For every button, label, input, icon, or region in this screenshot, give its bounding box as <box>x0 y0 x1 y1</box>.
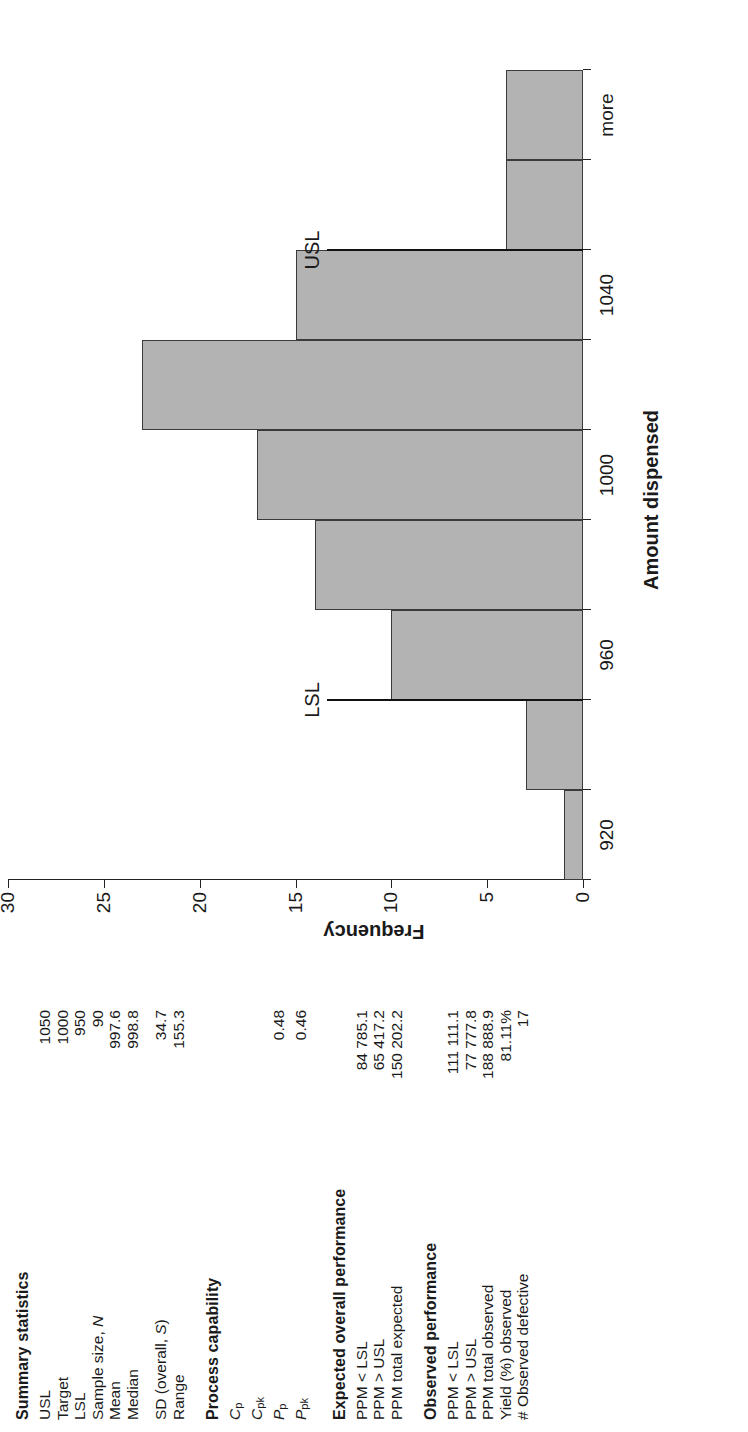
stat-value: 997.6 <box>106 1010 124 1049</box>
stat-row: Mean997.6 <box>106 1010 124 1420</box>
stat-label: PPM total expected <box>388 1286 406 1420</box>
spec-limit-line-usl <box>327 249 583 251</box>
stat-value: 1050 <box>36 1010 54 1044</box>
spec-limit-label-usl: USL <box>301 231 324 270</box>
stat-value: 84 785.1 <box>353 1010 371 1070</box>
bar <box>257 430 583 520</box>
stat-row: SD (overall, S)34.7 <box>152 1010 170 1420</box>
summary-statistics-block: Summary statistics USL1050Target1000LSL9… <box>14 1010 187 1420</box>
y-tick <box>487 880 488 888</box>
chart-canvas: Frequency Amount dispensed 051015202530 … <box>0 0 748 1000</box>
x-tick <box>583 159 591 160</box>
stat-label: Yield (%) observed <box>497 1290 515 1420</box>
bar <box>391 610 583 700</box>
stat-row: Sample size, N90 <box>89 1010 107 1420</box>
summary-heading: Summary statistics <box>14 1010 32 1420</box>
stat-row: Ppk0.46 <box>292 1010 314 1420</box>
summary-rows: USL1050Target1000LSL950Sample size, N90M… <box>36 1010 141 1420</box>
stat-value: 77 777.8 <box>462 1010 480 1070</box>
stat-value: 90 <box>89 1010 107 1027</box>
stat-label: # Observed defective <box>514 1274 532 1420</box>
stat-label: Range <box>170 1374 188 1420</box>
y-tick <box>8 880 9 888</box>
observed-rows: PPM < LSL111 111.1PPM > USL77 777.8PPM t… <box>444 1010 532 1420</box>
x-tick <box>583 429 591 430</box>
stat-value: 81.11% <box>497 1010 515 1061</box>
y-tick-label: 10 <box>380 892 402 913</box>
stat-value: 34.7 <box>152 1010 170 1040</box>
stat-label: Sample size, N <box>89 1316 107 1420</box>
stat-label: PPM < LSL <box>444 1341 462 1420</box>
stat-row: LSL950 <box>71 1010 89 1420</box>
stat-value: 1000 <box>54 1010 72 1044</box>
x-axis-title: Amount dispensed <box>640 410 663 590</box>
bar <box>315 520 583 610</box>
x-tick <box>583 879 591 880</box>
x-tick-label: 1000 <box>596 454 618 496</box>
stat-row: PPM < LSL111 111.1 <box>444 1010 462 1420</box>
stat-label: Mean <box>106 1381 124 1420</box>
x-tick-label: 960 <box>596 639 618 671</box>
stat-value: 0.46 <box>292 1010 314 1040</box>
y-axis-title: Frequency <box>323 920 424 943</box>
observed-heading: Observed performance <box>422 1010 440 1420</box>
stat-row: Target1000 <box>54 1010 72 1420</box>
stat-label: PPM < LSL <box>353 1341 371 1420</box>
x-tick <box>583 69 591 70</box>
x-tick <box>583 339 591 340</box>
y-tick-label: 20 <box>189 892 211 913</box>
expected-performance-block: Expected overall performance PPM < LSL84… <box>331 1010 406 1420</box>
stat-label: PPM > USL <box>370 1339 388 1420</box>
stat-label: Cp <box>226 1403 248 1420</box>
stat-label: Ppk <box>292 1398 314 1420</box>
stat-label: SD (overall, S) <box>152 1319 170 1420</box>
stat-row: PPM total observed188 888.9 <box>479 1010 497 1420</box>
stat-row: PPM total expected150 202.2 <box>388 1010 406 1420</box>
y-tick-label: 25 <box>93 892 115 913</box>
y-tick-label: 0 <box>572 892 594 903</box>
stat-row: Cp <box>226 1010 248 1420</box>
capability-heading: Process capability <box>204 1010 222 1420</box>
stat-row: Range155.3 <box>170 1010 188 1420</box>
stat-value: 950 <box>71 1010 89 1036</box>
x-tick <box>583 789 591 790</box>
stat-value: 0.48 <box>270 1010 292 1040</box>
bar <box>296 250 584 340</box>
y-tick <box>391 880 392 888</box>
stat-value: 17 <box>514 1010 532 1027</box>
stat-label: Target <box>54 1377 72 1420</box>
y-tick-label: 15 <box>285 892 307 913</box>
stat-row: PPM < LSL84 785.1 <box>353 1010 371 1420</box>
observed-performance-block: Observed performance PPM < LSL111 111.1P… <box>422 1010 532 1420</box>
expected-heading: Expected overall performance <box>331 1010 349 1420</box>
page-root: Frequency Amount dispensed 051015202530 … <box>0 0 748 1432</box>
bar <box>564 790 583 880</box>
stat-row: Median998.8 <box>124 1010 142 1420</box>
statistics-canvas: Summary statistics USL1050Target1000LSL9… <box>0 1000 748 1432</box>
x-tick-label: 920 <box>596 819 618 851</box>
spec-limit-label-lsl: LSL <box>301 682 324 718</box>
bar <box>506 160 583 250</box>
spec-limit-line-lsl <box>327 699 583 701</box>
plot-area: 051015202530 92096010001040more LSLUSL <box>8 70 583 880</box>
stat-label: Pp <box>270 1403 292 1420</box>
stat-label: Median <box>124 1369 142 1420</box>
x-tick-label: 1040 <box>596 274 618 316</box>
stat-row: PPM > USL65 417.2 <box>370 1010 388 1420</box>
x-tick <box>583 699 591 700</box>
stat-value: 65 417.2 <box>370 1010 388 1070</box>
y-tick-label: 5 <box>476 892 498 903</box>
y-tick <box>583 880 584 888</box>
x-tick <box>583 609 591 610</box>
stat-label: PPM > USL <box>462 1339 480 1420</box>
y-tick <box>200 880 201 888</box>
stat-value: 188 888.9 <box>479 1010 497 1079</box>
x-tick <box>583 249 591 250</box>
process-capability-block: Process capability CpCpkPp0.48Ppk0.46 <box>204 1010 314 1420</box>
x-tick-label: more <box>596 93 618 136</box>
statistics-panel: Summary statistics USL1050Target1000LSL9… <box>0 1000 748 1432</box>
stat-row: Cpk <box>248 1010 270 1420</box>
y-tick <box>296 880 297 888</box>
stat-row: Pp0.48 <box>270 1010 292 1420</box>
expected-rows: PPM < LSL84 785.1PPM > USL65 417.2PPM to… <box>353 1010 406 1420</box>
